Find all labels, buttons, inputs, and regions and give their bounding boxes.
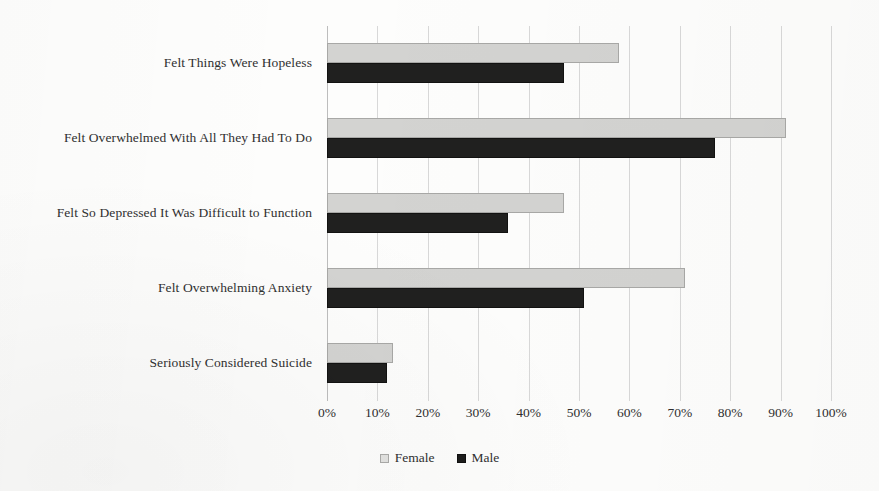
bar-group: [327, 43, 831, 85]
bar-group: [327, 118, 831, 160]
category-label: Seriously Considered Suicide: [0, 355, 312, 371]
bar-female[interactable]: [327, 268, 685, 288]
x-tick-label: 50%: [567, 404, 592, 422]
x-tick-label: 20%: [415, 404, 440, 422]
x-tick-label: 90%: [768, 404, 793, 422]
x-tick-label: 0%: [318, 404, 336, 422]
legend-label: Male: [472, 450, 500, 466]
bar-male[interactable]: [327, 288, 584, 308]
bar-male[interactable]: [327, 363, 387, 383]
bar-male[interactable]: [327, 213, 508, 233]
x-tick-label: 60%: [617, 404, 642, 422]
x-tick-label: 70%: [667, 404, 692, 422]
legend-label: Female: [395, 450, 435, 466]
chart-legend: FemaleMale: [0, 450, 879, 466]
x-tick-label: 30%: [466, 404, 491, 422]
category-label: Felt Overwhelming Anxiety: [0, 280, 312, 296]
legend-item-female[interactable]: Female: [380, 450, 435, 466]
bar-group: [327, 193, 831, 235]
category-label: Felt Things Were Hopeless: [0, 55, 312, 71]
plot-area: [327, 26, 831, 401]
category-axis-labels: Felt Things Were HopelessFelt Overwhelme…: [0, 26, 320, 401]
bar-female[interactable]: [327, 193, 564, 213]
chart-page: Felt Things Were HopelessFelt Overwhelme…: [0, 0, 879, 491]
square-dark-icon: [457, 454, 466, 463]
bar-female[interactable]: [327, 118, 786, 138]
bar-male[interactable]: [327, 138, 715, 158]
bar-groups: [327, 26, 831, 401]
bar-group: [327, 268, 831, 310]
bar-male[interactable]: [327, 63, 564, 83]
gridline: [831, 26, 832, 401]
bar-female[interactable]: [327, 343, 393, 363]
x-tick-label: 10%: [365, 404, 390, 422]
x-tick-label: 40%: [516, 404, 541, 422]
bar-group: [327, 343, 831, 385]
bar-female[interactable]: [327, 43, 619, 63]
x-axis-tick-labels: 0%10%20%30%40%50%60%70%80%90%100%: [327, 404, 831, 426]
legend-item-male[interactable]: Male: [457, 450, 500, 466]
square-light-icon: [380, 454, 389, 463]
x-tick-label: 80%: [718, 404, 743, 422]
x-tick-label: 100%: [815, 404, 847, 422]
category-label: Felt Overwhelmed With All They Had To Do: [0, 130, 312, 146]
category-label: Felt So Depressed It Was Difficult to Fu…: [0, 205, 312, 221]
